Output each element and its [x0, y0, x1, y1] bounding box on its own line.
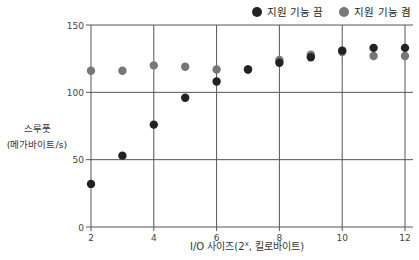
y-axis-label: 스루풋 (메가바이트/s) [2, 121, 72, 153]
x-tick-label: 12 [399, 233, 410, 243]
y-tick-label: 150 [67, 21, 84, 31]
y-axis-label-line2: (메가바이트/s) [2, 137, 72, 153]
data-point [307, 53, 315, 61]
x-tick-label: 4 [151, 233, 157, 243]
data-point [369, 44, 377, 52]
data-point [87, 180, 95, 188]
y-tick-label: 100 [67, 88, 84, 98]
data-point [244, 65, 252, 73]
legend-item-on: 지원 기능 켬 [339, 4, 411, 19]
data-point [150, 120, 158, 128]
y-axis-label-line1: 스루풋 [2, 121, 72, 137]
data-point [118, 151, 126, 159]
data-point [181, 94, 189, 102]
data-point [275, 59, 283, 67]
legend-dot-icon [252, 7, 262, 17]
legend-dot-icon [339, 7, 349, 17]
legend-label-off: 지원 기능 끔 [267, 4, 324, 19]
data-point [118, 67, 126, 75]
data-point [87, 67, 95, 75]
y-tick-label: 50 [73, 155, 85, 165]
data-point [212, 77, 220, 85]
legend: 지원 기능 끔 지원 기능 켬 [252, 4, 411, 19]
data-point [212, 65, 220, 73]
x-tick-label: 2 [88, 233, 94, 243]
y-tick-label: 0 [78, 223, 84, 233]
data-point [401, 52, 409, 60]
x-axis-label: I/O 사이즈(2x, 킬로바이트) [190, 238, 304, 253]
data-point [150, 61, 158, 69]
legend-item-off: 지원 기능 끔 [252, 4, 324, 19]
data-point [181, 63, 189, 71]
x-tick-label: 10 [336, 233, 348, 243]
data-point [369, 52, 377, 60]
data-point [401, 44, 409, 52]
data-point [338, 46, 346, 54]
x-axis-label-pre: I/O 사이즈(2 [190, 241, 245, 252]
x-axis-label-post: , 킬로바이트) [249, 241, 304, 252]
legend-label-on: 지원 기능 켬 [354, 4, 411, 19]
